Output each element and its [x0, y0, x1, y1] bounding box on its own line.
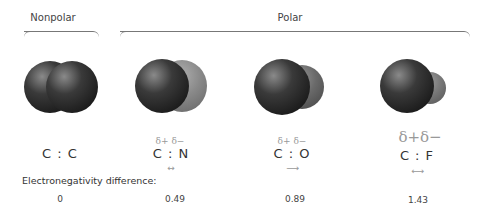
dipole-arrow-cn: ↔ — [156, 163, 186, 173]
nonpolar-label: Nonpolar — [27, 12, 79, 23]
delta-cn: δ+ δ− — [150, 136, 190, 146]
molecule-cn — [133, 56, 213, 116]
dipole-arrow-cf: ⟷ — [401, 166, 435, 176]
nonpolar-brace — [24, 31, 99, 40]
carbon-atom-2 — [46, 61, 98, 113]
formula-cc: C : C — [35, 146, 85, 161]
molecule-co — [254, 56, 334, 116]
polar-brace — [120, 31, 470, 40]
molecule-cc — [22, 58, 102, 118]
carbon-atom — [254, 59, 310, 115]
difference-cc: 0 — [45, 194, 75, 204]
dipole-arrow-co: ⟶ — [278, 163, 308, 173]
difference-co: 0.89 — [280, 194, 310, 204]
difference-cf: 1.43 — [403, 195, 433, 205]
formula-cf: C : F — [392, 148, 442, 163]
delta-cf: δ+δ− — [392, 128, 448, 146]
delta-co: δ+ δ− — [271, 136, 313, 146]
polar-label: Polar — [270, 12, 310, 23]
formula-cn: C : N — [146, 146, 196, 161]
carbon-atom — [135, 59, 189, 113]
difference-cn: 0.49 — [160, 194, 190, 204]
molecule-cf — [380, 56, 460, 116]
formula-co: C : O — [267, 146, 317, 161]
electronegativity-label: Electronegativity difference: — [22, 175, 157, 186]
carbon-atom — [380, 59, 434, 113]
